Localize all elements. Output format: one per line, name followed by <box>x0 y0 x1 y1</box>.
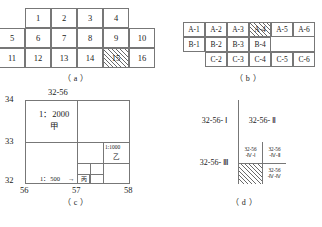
grid-cell: 7 <box>51 28 77 48</box>
grid-cell: C-2 <box>205 52 227 67</box>
grid-cell: A-1 <box>183 22 205 37</box>
figure-sheet: 1 2 3 4 5 6 7 8 9 10 11 12 13 14 15 16 （… <box>0 0 322 227</box>
grid-cell: A-3 <box>227 22 249 37</box>
label-top-sheet-number: 32-56 <box>48 88 68 97</box>
label-name-yi: 乙 <box>113 154 120 161</box>
grid-cell: B-4 <box>249 37 271 52</box>
grid-cell: 16 <box>129 48 155 68</box>
grid-cell: 8 <box>77 28 103 48</box>
quadrant-ii-label: 32-56- Ⅱ <box>239 100 286 142</box>
panel-c: 丙 32-56 34 33 32 56 57 58 1：2000 甲 1:100… <box>0 86 161 227</box>
grid-cell-empty <box>271 37 315 52</box>
grid-cell: 2 <box>51 8 77 28</box>
panel-c-caption: （ c ） <box>63 196 89 207</box>
y-axis-label-33: 33 <box>5 137 14 146</box>
label-name-jia: 甲 <box>32 122 76 131</box>
grid-cell: B-1 <box>183 37 205 52</box>
sub-quadrant-iv-iv-label: 32-56 -Ⅳ-Ⅳ <box>263 164 286 184</box>
grid-cell: C-5 <box>271 52 293 67</box>
y-axis-label-34: 34 <box>5 95 14 104</box>
x-axis-label-56: 56 <box>20 186 29 195</box>
grid-cell: 3 <box>77 8 103 28</box>
grid-cell: B-2 <box>205 37 227 52</box>
grid-cell-highlighted: A-4 <box>249 22 271 37</box>
quadrant-iii-label: 32-56- Ⅲ <box>191 142 238 184</box>
label-scale-1000: 1:1000 <box>105 145 120 151</box>
quadrant-i-label: 32-56- Ⅰ <box>191 100 238 142</box>
label-scale-2000: 1：2000 <box>32 110 76 119</box>
divider-500-right <box>103 163 104 184</box>
sub-label-line2: -Ⅳ-Ⅰ <box>246 153 255 159</box>
grid-cell: 13 <box>51 48 77 68</box>
grid-cell: C-6 <box>293 52 315 67</box>
sub-quadrant-iv-i-label: 32-56 -Ⅳ-Ⅰ <box>239 142 262 163</box>
grid-cell: A-5 <box>271 22 293 37</box>
panel-b: A-1 A-2 A-3 A-4 A-5 A-6 B-1 B-2 B-3 B-4 … <box>161 0 322 86</box>
grid-cell: 1 <box>25 8 51 28</box>
divider-500-mid-vertical <box>90 163 91 184</box>
x-axis-label-58: 58 <box>124 186 133 195</box>
panel-b-caption: （ b ） <box>235 72 261 83</box>
grid-cell: C-3 <box>227 52 249 67</box>
divider-1000-bottom <box>103 163 130 164</box>
grid-cell: 9 <box>103 28 129 48</box>
sub-label-line2: -Ⅳ-Ⅳ <box>268 174 281 180</box>
panel-a-caption: （ a ） <box>63 72 89 83</box>
grid-cell: 5 <box>0 28 25 48</box>
grid-cell: 12 <box>25 48 51 68</box>
grid-cell: 14 <box>77 48 103 68</box>
y-axis-label-32: 32 <box>5 176 14 185</box>
divider-1000-left <box>103 142 104 163</box>
label-scale-500: 1：500 <box>40 176 60 183</box>
grid-cell-highlighted: 15 <box>103 48 129 68</box>
panel-d-caption: （ d ） <box>231 196 257 207</box>
panel-d: 32-56- Ⅰ 32-56- Ⅱ 32-56- Ⅲ 32-56 -Ⅳ-Ⅰ 32… <box>161 86 322 227</box>
grid-cell: 4 <box>103 8 129 28</box>
grid-cell: 11 <box>0 48 25 68</box>
divider-1000-top <box>103 142 130 143</box>
grid-cell: A-2 <box>205 22 227 37</box>
grid-cell: 6 <box>25 28 51 48</box>
cell-bing: 丙 <box>77 174 90 184</box>
grid-cell: B-3 <box>227 37 249 52</box>
sub-label-line2: -Ⅳ-Ⅱ <box>269 153 279 159</box>
x-axis-label-57: 57 <box>72 186 81 195</box>
arrow-icon: → <box>68 176 75 183</box>
panel-a: 1 2 3 4 5 6 7 8 9 10 11 12 13 14 15 16 （… <box>0 0 161 86</box>
sub-quadrant-iv-iii-highlighted <box>239 164 262 184</box>
grid-cell: 10 <box>129 28 155 48</box>
grid-cell: A-6 <box>293 22 315 37</box>
sub-quadrant-iv-ii-label: 32-56 -Ⅳ-Ⅱ <box>263 142 286 163</box>
grid-cell: C-4 <box>249 52 271 67</box>
